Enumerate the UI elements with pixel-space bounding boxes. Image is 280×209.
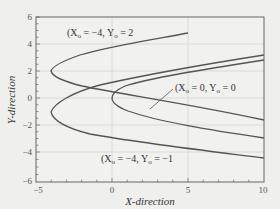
- y-tick-labels: 6 4 2 0 −2 −4 −6: [22, 12, 32, 186]
- x-tick-labels: −5 0 5 10: [33, 185, 268, 195]
- y-axis-title: Y-direction: [5, 75, 17, 124]
- y-tick-label: 4: [28, 39, 33, 49]
- y-tick-label: −6: [22, 176, 32, 186]
- y-tick-label: −2: [22, 120, 32, 130]
- y-tick-label: 0: [28, 93, 33, 103]
- x-axis-title: X-direction: [124, 195, 175, 207]
- x-tick-label: 10: [259, 185, 269, 195]
- y-tick-label: 6: [28, 12, 33, 22]
- x-tick-label: −5: [33, 185, 43, 195]
- x-tick-label: 5: [186, 185, 191, 195]
- y-tick-label: 2: [28, 66, 33, 76]
- chart: 6 4 2 0 −2 −4 −6 −5 0 5 10 X-direction Y…: [0, 0, 280, 209]
- y-tick-label: −4: [22, 147, 32, 157]
- x-tick-label: 0: [110, 185, 115, 195]
